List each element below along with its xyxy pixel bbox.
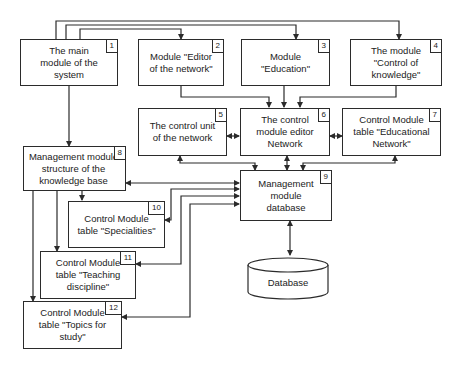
node-number: 10	[148, 202, 164, 215]
node-label: Management module structure of the knowl…	[27, 151, 122, 187]
node-editor-module: Module "Editor of the network" 2	[138, 39, 224, 86]
node-specialities-table: Control Module table "Specialities" 10	[68, 201, 165, 248]
node-main-module: The main module of the system 1	[20, 39, 118, 86]
database-label: Database	[248, 277, 328, 288]
node-label: Module "Editor of the network"	[143, 51, 218, 75]
node-number: 5	[215, 109, 226, 122]
node-label: Control Module table "Topics for study"	[33, 307, 112, 343]
node-educational-network-table: Control Module table "Educational Networ…	[342, 108, 441, 156]
node-label: The control unit of the network	[144, 120, 221, 144]
node-number: 9	[320, 171, 331, 184]
node-number: 2	[212, 40, 223, 53]
node-number: 4	[430, 40, 441, 53]
node-knowledge-base-structure: Management module structure of the knowl…	[23, 146, 126, 191]
node-number: 12	[105, 302, 121, 315]
node-label: Control Module table "Specialities"	[71, 213, 161, 237]
node-network-control-unit: The control unit of the network 5	[138, 108, 227, 156]
node-label: Control Module table "Teaching disciplin…	[50, 257, 127, 293]
node-number: 8	[114, 147, 125, 160]
node-label: The control module editor Network	[250, 114, 320, 150]
node-number: 11	[120, 252, 135, 265]
node-label: Control Module table "Educational Networ…	[347, 114, 435, 150]
node-number: 1	[106, 40, 117, 53]
node-label: The main module of the system	[34, 45, 104, 81]
node-knowledge-control-module: The module "Control of knowledge" 4	[350, 39, 442, 86]
node-network-editor-control: The control module editor Network 6	[240, 108, 330, 156]
node-label: The module "Control of knowledge"	[365, 45, 427, 81]
node-education-module: Module "Education" 3	[241, 39, 330, 86]
node-topics-table: Control Module table "Topics for study" …	[23, 301, 122, 349]
node-label: Module "Education"	[255, 51, 316, 75]
node-label: Management module database	[252, 178, 319, 214]
node-number: 7	[429, 109, 440, 122]
node-database-management: Management module database 9	[240, 170, 332, 221]
system-architecture-diagram: The main module of the system 1 Module "…	[0, 0, 460, 366]
node-number: 6	[318, 109, 329, 122]
node-number: 3	[318, 40, 329, 53]
node-teaching-discipline-table: Control Module table "Teaching disciplin…	[40, 251, 136, 299]
